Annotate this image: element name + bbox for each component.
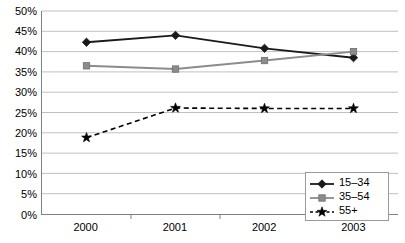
x-axis-tick-label: 2001 <box>145 222 205 233</box>
star-marker-icon <box>309 204 335 216</box>
x-axis-tick-label: 2000 <box>56 222 116 233</box>
legend-item-15-34[interactable]: 15–34 <box>309 175 385 189</box>
square-marker-icon <box>309 190 335 202</box>
y-axis-tick-label: 0% <box>1 210 37 221</box>
line-chart: 50%45%40%35%30%25%20%15%10%5%0% 20002001… <box>0 0 405 243</box>
x-axis-tick-label: 2003 <box>323 222 383 233</box>
legend-item-label: 55+ <box>335 205 358 216</box>
legend-item-55+[interactable]: 55+ <box>309 203 385 217</box>
y-axis-tick-label: 30% <box>1 87 37 98</box>
legend-item-35-54[interactable]: 35–54 <box>309 189 385 203</box>
y-axis-tick-label: 35% <box>1 67 37 78</box>
y-axis-tick-label: 10% <box>1 169 37 180</box>
diamond-marker-icon <box>309 176 335 188</box>
x-axis-tick-label: 2002 <box>234 222 294 233</box>
legend-item-label: 35–54 <box>335 191 370 202</box>
legend-item-label: 15–34 <box>335 177 370 188</box>
y-axis-tick-label: 50% <box>1 6 37 17</box>
y-axis-tick-label: 5% <box>1 189 37 200</box>
y-axis-tick-label: 45% <box>1 26 37 37</box>
y-axis-tick-label: 15% <box>1 148 37 159</box>
y-axis-tick-label: 25% <box>1 108 37 119</box>
legend[interactable]: 15–3435–5455+ <box>305 172 389 221</box>
y-axis-tick-label: 40% <box>1 46 37 57</box>
y-axis-tick-label: 20% <box>1 128 37 139</box>
